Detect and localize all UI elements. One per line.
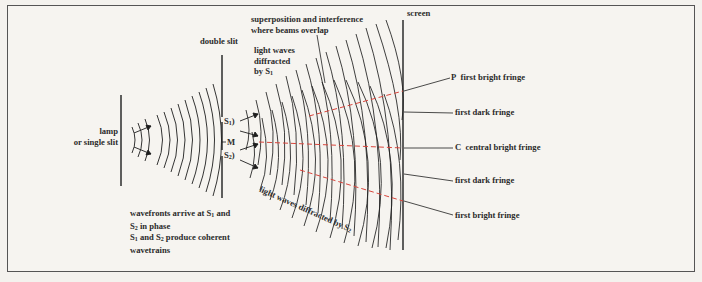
superposition-label: superposition and interference where bea… [251,14,363,35]
coherent-label: S1 and S2 produce coherent wavetrains [130,232,230,255]
fringe-label-p-first-bright: P first bright fringe [451,72,525,83]
fringe-leaders [404,78,453,215]
fringe-label-first-bright-lower: first bright fringe [455,210,519,221]
m-label: M [227,137,235,148]
double-slit-label: double slit [200,36,238,47]
incident-wavefronts [132,84,222,196]
screen-label: screen [407,8,430,19]
slit-arrows [240,113,258,169]
fringe-label-c-central-bright: C central bright fringe [455,142,540,153]
fringe-label-first-dark-upper: first dark fringe [455,107,514,118]
s2-label: S2) [224,150,235,163]
lamp-label: lamp or single slit [40,126,118,147]
wavefronts-label: wavefronts arrive at S1 and S2 in phase [130,208,230,233]
diffracted-s1-label: light waves diffracted by S1 [254,45,295,79]
fringe-label-first-dark-lower: first dark fringe [455,175,514,186]
s1-label: S1) [224,116,235,129]
lamp-arrows [134,125,151,155]
